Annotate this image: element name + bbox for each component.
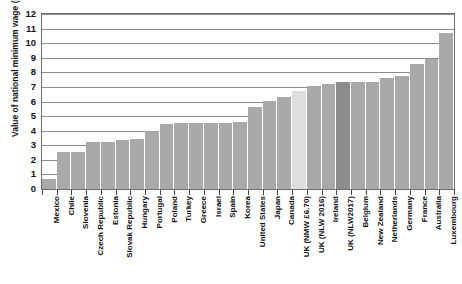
x-axis-label: UK (NLW2017) bbox=[347, 196, 355, 251]
x-axis-tick bbox=[116, 190, 117, 195]
bar bbox=[86, 142, 101, 189]
x-axis-label: Slovenia bbox=[82, 196, 90, 229]
x-axis-label: Israel bbox=[215, 196, 223, 217]
x-axis-tick bbox=[307, 190, 308, 195]
y-axis-title: Value of national minimum wage (£) bbox=[10, 0, 20, 160]
bar bbox=[233, 122, 248, 189]
bar bbox=[395, 76, 410, 189]
x-axis-tick bbox=[101, 190, 102, 195]
x-axis-tick bbox=[174, 190, 175, 195]
bar bbox=[160, 124, 175, 189]
bar bbox=[292, 91, 307, 189]
x-axis-tick bbox=[145, 190, 146, 195]
x-axis-tick bbox=[380, 190, 381, 195]
bar bbox=[101, 142, 116, 189]
x-axis-label: Mexico bbox=[53, 196, 61, 223]
x-axis-tick bbox=[233, 190, 234, 195]
x-axis-label: Japan bbox=[274, 196, 282, 219]
x-axis-tick bbox=[204, 190, 205, 195]
x-axis-label: Estonia bbox=[112, 196, 120, 225]
x-axis-tick bbox=[277, 190, 278, 195]
bar bbox=[130, 139, 145, 189]
bar bbox=[189, 123, 204, 189]
x-axis-tick bbox=[263, 190, 264, 195]
x-axis-label: Czech Republic bbox=[97, 196, 105, 256]
x-axis-tick bbox=[336, 190, 337, 195]
x-axis-labels: MexicoChileSloveniaCzech RepublicEstonia… bbox=[41, 196, 455, 284]
minimum-wage-bar-chart: Value of national minimum wage (£) 01234… bbox=[0, 0, 462, 284]
y-axis-tick-label: 0 bbox=[8, 184, 36, 194]
x-axis-label: Turkey bbox=[185, 196, 193, 222]
bar bbox=[336, 82, 351, 189]
x-axis-label: Greece bbox=[200, 196, 208, 223]
bar bbox=[145, 131, 160, 189]
x-axis-label: Belgium bbox=[362, 196, 370, 228]
x-axis-tick bbox=[42, 190, 43, 195]
x-axis-label: Portugal bbox=[156, 196, 164, 228]
x-axis-label: Korea bbox=[244, 196, 252, 219]
x-axis-label: Australia bbox=[435, 196, 443, 230]
x-axis-tick bbox=[248, 190, 249, 195]
x-axis-tick bbox=[351, 190, 352, 195]
bar bbox=[410, 64, 425, 189]
x-axis-label: UK (NMW £6.70) bbox=[303, 196, 311, 257]
x-axis-label: UK (NLW 2016) bbox=[318, 196, 326, 253]
bars-group bbox=[42, 14, 454, 189]
bar bbox=[71, 152, 86, 189]
bar bbox=[425, 59, 440, 189]
x-axis-tick bbox=[366, 190, 367, 195]
x-axis-tick bbox=[71, 190, 72, 195]
x-axis-label: Poland bbox=[171, 196, 179, 223]
x-axis-label: Germany bbox=[406, 196, 414, 231]
x-axis-tick bbox=[395, 190, 396, 195]
bar bbox=[174, 123, 189, 189]
bar bbox=[219, 123, 234, 189]
x-axis-label: Luxembourg bbox=[450, 196, 458, 244]
bar bbox=[204, 123, 219, 189]
x-axis-tick bbox=[219, 190, 220, 195]
bar bbox=[351, 82, 366, 189]
x-axis-label: United States bbox=[259, 196, 267, 247]
x-axis-label: Canada bbox=[288, 196, 296, 225]
x-axis-label: New Zealand bbox=[377, 196, 385, 245]
x-axis-label: Slovak Republic bbox=[126, 196, 134, 258]
bar bbox=[322, 84, 337, 189]
bar bbox=[116, 140, 131, 189]
x-axis-label: Hungary bbox=[141, 196, 149, 228]
bar bbox=[439, 33, 454, 189]
x-axis-tick bbox=[439, 190, 440, 195]
bar bbox=[248, 107, 263, 189]
bar bbox=[380, 78, 395, 189]
x-axis-label: Chile bbox=[68, 196, 76, 216]
bar bbox=[277, 97, 292, 189]
x-axis-tick bbox=[130, 190, 131, 195]
x-axis-label: Netherlands bbox=[391, 196, 399, 242]
y-axis-tick-label: 1 bbox=[8, 169, 36, 179]
x-axis-tick bbox=[160, 190, 161, 195]
bar bbox=[57, 152, 72, 189]
x-axis-tick bbox=[410, 190, 411, 195]
x-axis-tick bbox=[57, 190, 58, 195]
bar bbox=[307, 86, 322, 189]
x-axis-label: Ireland bbox=[332, 196, 340, 222]
x-axis-tick bbox=[454, 190, 455, 195]
bar bbox=[263, 101, 278, 189]
x-axis-label: France bbox=[421, 196, 429, 222]
x-axis-tick bbox=[322, 190, 323, 195]
x-axis-tick bbox=[292, 190, 293, 195]
x-axis-tick bbox=[86, 190, 87, 195]
x-axis-tick bbox=[425, 190, 426, 195]
bar bbox=[366, 82, 381, 189]
x-axis-tick bbox=[189, 190, 190, 195]
x-axis-label: Spain bbox=[229, 196, 237, 218]
bar bbox=[42, 179, 57, 189]
